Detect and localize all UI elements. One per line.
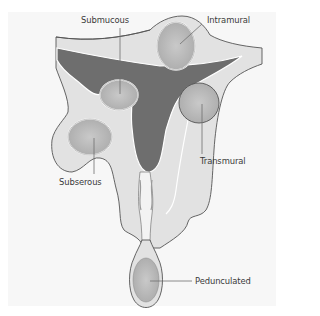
fibroid-pedunculated [133, 258, 159, 302]
label-intramural: Intramural [207, 15, 250, 25]
label-submucous: Submucous [81, 15, 129, 25]
label-transmural: Transmural [200, 156, 246, 166]
fibroid-transmural [179, 83, 219, 123]
label-subserous: Subserous [59, 177, 102, 187]
label-pedunculated: Pedunculated [195, 276, 251, 286]
